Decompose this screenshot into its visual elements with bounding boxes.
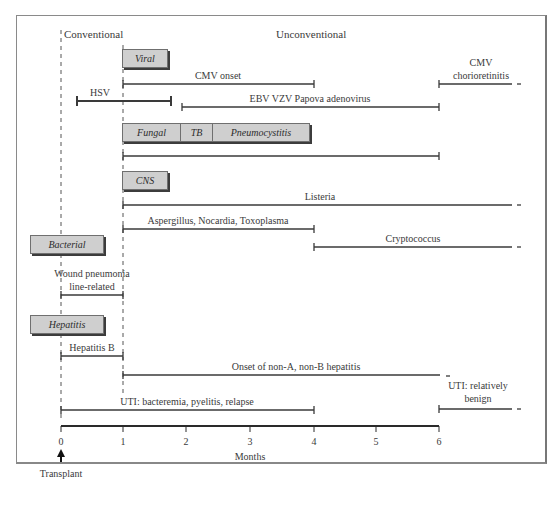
hepatitis-label: Hepatitis <box>31 316 103 333</box>
label-cmv-onset: CMV onset <box>195 70 241 81</box>
label-uti-relatively-line1: UTI: relatively <box>448 380 508 391</box>
tick-6: 6 <box>437 436 442 447</box>
label-hepatitis-b: Hepatitis B <box>69 342 114 353</box>
interval-hepatitis-b <box>61 352 123 360</box>
category-cns: CNS <box>122 171 168 190</box>
transplant-arrow-icon <box>57 449 65 462</box>
label-ebv: EBV VZV Papova adenovirus <box>250 93 371 104</box>
category-fungal-tb-pneumocystitis: Fungal TB Pneumocystitis <box>122 123 310 142</box>
interval-uti-bacteremia <box>61 406 314 414</box>
viral-label: Viral <box>123 50 167 67</box>
interval-uti-benign <box>439 405 521 413</box>
interval-aspergillus <box>123 225 314 233</box>
transplant-label: Transplant <box>40 468 82 479</box>
tick-1: 1 <box>121 436 126 447</box>
bacterial-label: Bacterial <box>31 236 103 253</box>
label-non-a-non-b: Onset of non-A, non-B hepatitis <box>232 361 361 372</box>
label-benign-line2: benign <box>464 393 491 404</box>
tick-5: 5 <box>374 436 379 447</box>
category-bacterial: Bacterial <box>30 235 104 254</box>
label-line-related-line2: line-related <box>69 281 115 292</box>
label-hsv: HSV <box>90 87 110 98</box>
conventional-header: Conventional <box>64 29 123 40</box>
interval-wound <box>61 291 123 299</box>
category-hepatitis: Hepatitis <box>30 315 104 334</box>
cns-label: CNS <box>123 172 167 189</box>
unconventional-header: Unconventional <box>276 29 346 40</box>
pneumocystitis-label: Pneumocystitis <box>213 124 309 141</box>
fungal-label: Fungal <box>123 124 181 141</box>
label-listeria: Listeria <box>305 191 336 202</box>
category-viral: Viral <box>122 49 168 68</box>
axis-label-months: Months <box>235 451 266 462</box>
tb-label: TB <box>181 124 213 141</box>
interval-listeria <box>123 201 521 209</box>
tick-3: 3 <box>248 436 253 447</box>
label-uti-bacteremia: UTI: bacteremia, pyelitis, relapse <box>120 396 254 407</box>
interval-ebv <box>182 103 439 111</box>
label-chorioretinitis-line2: chorioretinitis <box>453 70 509 81</box>
tick-4: 4 <box>312 436 317 447</box>
tick-0: 0 <box>59 436 64 447</box>
tick-2: 2 <box>184 436 189 447</box>
interval-non-a-non-b <box>123 371 450 379</box>
interval-cmv-chorioretinitis <box>439 80 521 88</box>
label-cryptococcus: Cryptococcus <box>386 233 441 244</box>
x-axis <box>61 426 439 432</box>
label-aspergillus: Aspergillus, Nocardia, Toxoplasma <box>147 215 288 226</box>
interval-cryptococcus <box>314 243 521 251</box>
label-cmv-line1: CMV <box>470 57 493 68</box>
interval-fungal-tb-pcp <box>123 152 439 160</box>
label-wound-line1: Wound pneumonia <box>54 268 130 279</box>
interval-cmv-onset <box>123 80 314 88</box>
